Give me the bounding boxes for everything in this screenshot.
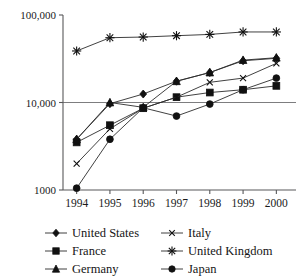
series-japan bbox=[73, 75, 280, 192]
legend-label: Germany bbox=[72, 263, 119, 276]
data-point-circle bbox=[173, 113, 180, 120]
axis-tick-marks bbox=[59, 15, 276, 194]
data-point-circle bbox=[206, 101, 213, 108]
data-point-circle bbox=[73, 185, 80, 192]
legend-entry-united-states[interactable]: United States bbox=[44, 227, 160, 240]
data-point-diamond bbox=[140, 90, 147, 98]
legend-label: Italy bbox=[188, 227, 211, 240]
data-point-circle bbox=[240, 86, 247, 93]
data-point-circle bbox=[140, 104, 147, 111]
legend-marker-asterisk-icon bbox=[160, 245, 184, 257]
chart-legend: United StatesItalyFranceUnited KingdomGe… bbox=[44, 224, 296, 278]
legend-entry-france[interactable]: France bbox=[44, 245, 160, 258]
legend-marker-diamond-icon bbox=[44, 227, 68, 239]
legend-entry-germany[interactable]: Germany bbox=[44, 263, 160, 276]
legend-label: United States bbox=[72, 227, 139, 240]
data-point-circle bbox=[273, 75, 280, 82]
data-point-circle bbox=[169, 266, 175, 272]
y-tick-label: 1000 bbox=[34, 184, 57, 196]
x-tick-label: 1995 bbox=[98, 197, 121, 209]
x-tick-label: 1998 bbox=[198, 197, 221, 209]
y-axis-tick-labels: 100,00010,0001000 bbox=[20, 9, 56, 196]
legend-entry-japan[interactable]: Japan bbox=[160, 263, 296, 276]
line-chart-figure: 100,00010,0001000 1994199519961997199819… bbox=[0, 0, 304, 280]
x-axis-tick-labels: 1994199519961997199819992000 bbox=[65, 197, 288, 209]
y-tick-label: 10,000 bbox=[26, 97, 57, 109]
series-united-kingdom bbox=[72, 27, 281, 55]
data-point-diamond bbox=[53, 229, 59, 237]
legend-entry-italy[interactable]: Italy bbox=[160, 227, 296, 240]
legend-label: Japan bbox=[188, 263, 216, 276]
data-point-square bbox=[206, 89, 213, 96]
data-point-asterisk bbox=[72, 46, 81, 55]
data-point-asterisk bbox=[139, 32, 148, 41]
data-point-asterisk bbox=[272, 27, 281, 36]
legend-label: United Kingdom bbox=[188, 245, 272, 258]
legend-marker-square-icon bbox=[44, 245, 68, 257]
legend-marker-circle-icon bbox=[160, 263, 184, 275]
data-point-square bbox=[53, 248, 59, 254]
data-point-asterisk bbox=[238, 27, 247, 36]
x-tick-label: 1999 bbox=[232, 197, 255, 209]
legend-marker-x-icon bbox=[160, 227, 184, 239]
data-point-asterisk bbox=[168, 247, 177, 256]
data-series-group bbox=[72, 27, 281, 191]
data-point-square bbox=[273, 82, 280, 89]
x-tick-label: 1997 bbox=[165, 197, 188, 209]
data-point-asterisk bbox=[105, 33, 114, 42]
data-point-circle bbox=[107, 136, 114, 143]
legend-entry-united-kingdom[interactable]: United Kingdom bbox=[160, 245, 296, 258]
legend-marker-triangle-icon bbox=[44, 263, 68, 275]
y-tick-label: 100,000 bbox=[20, 9, 56, 21]
x-tick-label: 1994 bbox=[65, 197, 88, 209]
legend-label: France bbox=[72, 245, 106, 258]
data-point-asterisk bbox=[172, 31, 181, 40]
x-tick-label: 1996 bbox=[132, 197, 155, 209]
data-point-x bbox=[74, 161, 80, 167]
data-point-asterisk bbox=[205, 30, 214, 39]
x-tick-label: 2000 bbox=[265, 197, 288, 209]
